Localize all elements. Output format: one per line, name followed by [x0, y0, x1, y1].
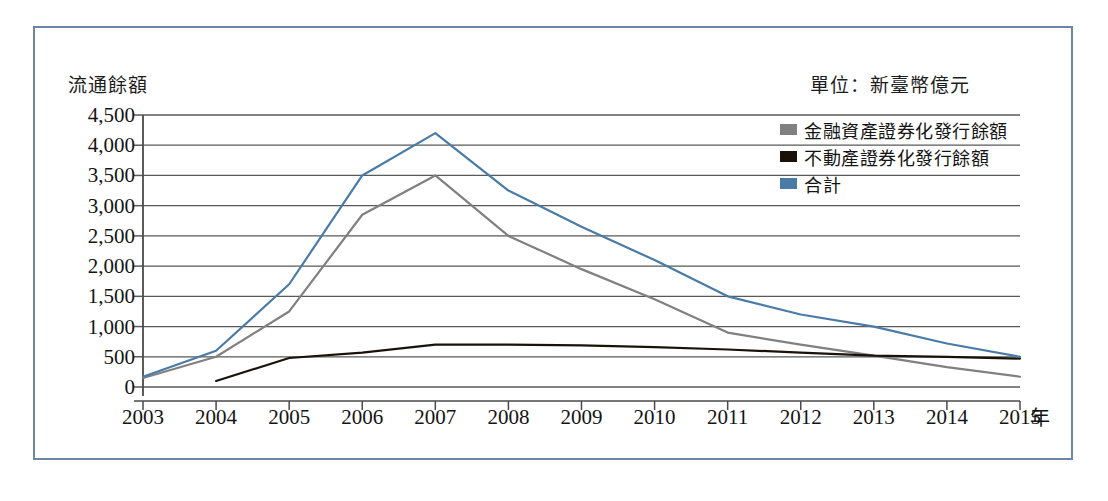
x-axis-tick: 2007	[395, 407, 475, 428]
legend-swatch-icon	[780, 124, 797, 135]
legend-item: 不動產證券化發行餘額	[780, 143, 1070, 170]
legend-item: 金融資產證券化發行餘額	[780, 116, 1070, 143]
legend-label: 合計	[804, 171, 841, 197]
x-axis-tick: 2005	[249, 407, 329, 428]
x-axis-tick: 2012	[761, 407, 841, 428]
x-axis-tick: 2008	[468, 407, 548, 428]
x-axis-tick: 2015	[980, 407, 1060, 428]
x-axis-tick: 2004	[176, 407, 256, 428]
x-axis-tick: 2006	[322, 407, 402, 428]
x-axis-tick: 2013	[834, 407, 914, 428]
x-axis-tick-labels: 年 20032004200520062007200820092010201120…	[35, 28, 1075, 462]
chart-legend: 金融資產證券化發行餘額不動產證券化發行餘額合計	[780, 116, 1070, 197]
x-axis-tick: 2014	[907, 407, 987, 428]
legend-swatch-icon	[780, 151, 797, 162]
legend-item: 合計	[780, 170, 1070, 197]
legend-label: 不動產證券化發行餘額	[804, 144, 989, 170]
x-axis-tick: 2011	[688, 407, 768, 428]
x-axis-tick: 2010	[615, 407, 695, 428]
x-axis-tick: 2003	[103, 407, 183, 428]
chart-frame: 流通餘額 單位：新臺幣億元 4,5004,0003,5003,0002,5002…	[33, 26, 1073, 460]
legend-label: 金融資產證券化發行餘額	[804, 117, 1008, 143]
legend-swatch-icon	[780, 178, 797, 189]
x-axis-tick: 2009	[542, 407, 622, 428]
